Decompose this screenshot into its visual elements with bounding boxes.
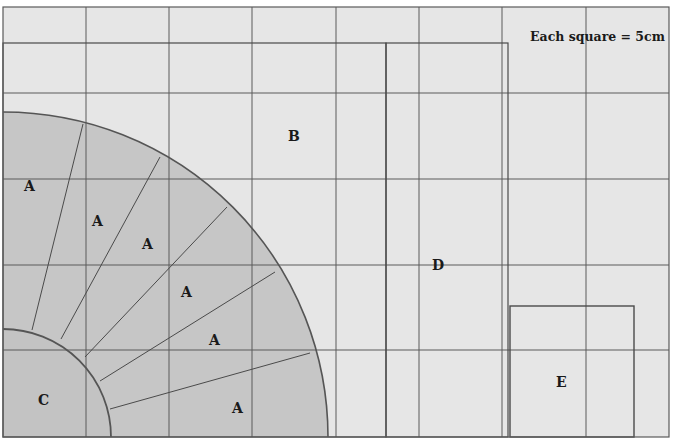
label-a-1: A	[23, 178, 36, 194]
label-b: B	[288, 128, 300, 144]
label-a-2: A	[91, 213, 104, 229]
label-a-4: A	[180, 284, 193, 300]
label-e: E	[556, 374, 567, 390]
label-c: C	[38, 392, 49, 408]
label-a-6: A	[231, 400, 244, 416]
label-a-5: A	[208, 332, 221, 348]
pieces-diagram: Each square = 5cm A A A A A A B C D E	[0, 0, 674, 443]
label-a-3: A	[141, 236, 154, 252]
scale-note: Each square = 5cm	[530, 29, 665, 44]
label-d: D	[432, 257, 444, 273]
